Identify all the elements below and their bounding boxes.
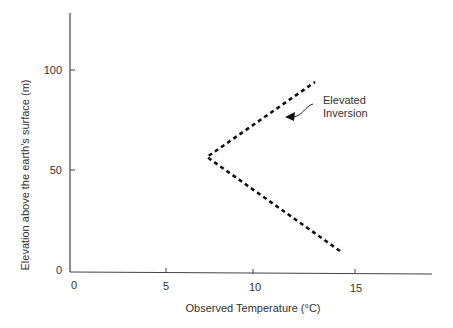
x-tick-label-0: 0 [71,279,77,291]
y-tick-label-50: 50 [50,164,62,176]
x-axis [70,272,432,274]
y-tick-label-100: 100 [44,64,62,76]
annotation-line2: Inversion [323,107,368,119]
annotation-arrowhead-icon [285,112,295,121]
x-tick-label-15: 15 [350,282,362,294]
x-tick-label-10: 10 [249,281,261,293]
y-tick-label-0: 0 [56,264,62,276]
y-axis-label: Elevation above the earth's surface (m) [19,79,31,270]
x-tick-label-5: 5 [163,280,169,292]
annotation-arrow [293,104,313,117]
temperature-profile-line [207,82,340,251]
x-axis-label: Observed Temperature (°C) [185,302,320,314]
chart: 100 50 0 0 5 10 15 Observed Temperature … [0,0,453,328]
annotation-line1: Elevated [323,94,366,106]
